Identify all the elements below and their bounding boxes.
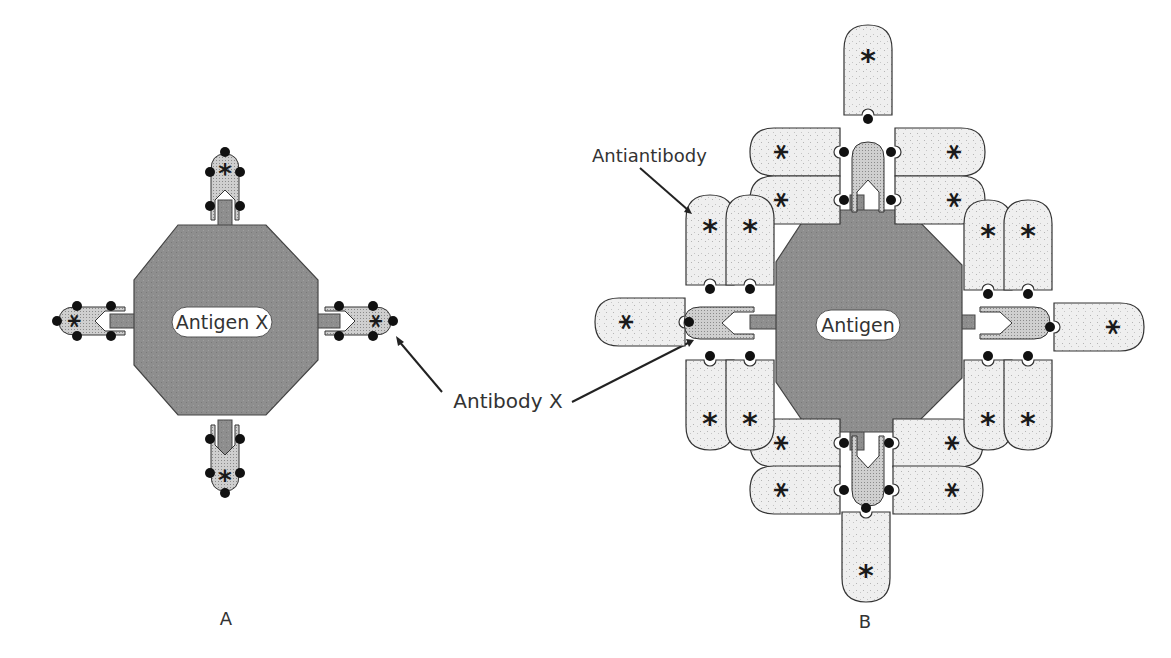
- caption-b: B: [859, 611, 871, 632]
- antiantibody: [884, 466, 983, 514]
- antibody-b-left: [684, 307, 754, 339]
- antibody-x-label: Antibody X: [453, 389, 563, 413]
- antibody-b-top: [852, 142, 884, 212]
- antiantibody: [1004, 351, 1052, 450]
- antibody-x-callout: Antibody X: [396, 336, 694, 413]
- antiantibody: [726, 195, 774, 294]
- antiantibody: [750, 466, 849, 514]
- antigen-x-label: Antigen X: [176, 311, 269, 333]
- caption-a: A: [220, 608, 233, 629]
- antibody-b-bottom: [852, 436, 884, 506]
- antiantibody-label: Antiantibody: [592, 145, 707, 166]
- antiantibody: [844, 25, 892, 124]
- antiantibody: [842, 503, 890, 602]
- panel-b: Antigen Antiantibody B: [592, 25, 1144, 632]
- antiantibody: [886, 128, 985, 176]
- panel-a: Antigen X A: [52, 147, 398, 629]
- antiantibody: [595, 298, 694, 346]
- antiantibody: [1004, 200, 1052, 299]
- antiantibody: [750, 128, 849, 176]
- antiantibody: [1045, 303, 1144, 351]
- antiantibody: [726, 351, 774, 450]
- antibody-b-right: [980, 307, 1050, 339]
- antigen-label: Antigen: [821, 314, 895, 336]
